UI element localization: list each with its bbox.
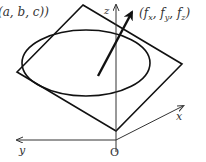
x-axis-label: x (176, 110, 183, 123)
origin-label: O (110, 146, 119, 159)
diagram-canvas: (a, b, c)) z (fx, fy, fz) x y O (0, 0, 206, 162)
level-surface-ellipse (22, 30, 150, 96)
z-axis-label: z (103, 5, 110, 16)
normal-vector-arrow (98, 12, 132, 76)
x-axis (116, 106, 183, 140)
point-label: (a, b, c)) (0, 5, 49, 19)
y-axis-label: y (18, 144, 26, 157)
normal-vector-label: (fx, fy, fz) (139, 6, 191, 22)
tangent-plane-quadrilateral (17, 5, 182, 131)
normal-vector-close: ) (185, 6, 191, 20)
